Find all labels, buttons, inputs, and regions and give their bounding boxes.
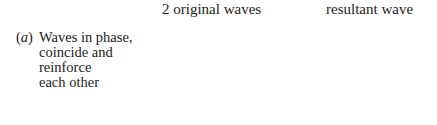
waves-diagram — [0, 0, 437, 125]
